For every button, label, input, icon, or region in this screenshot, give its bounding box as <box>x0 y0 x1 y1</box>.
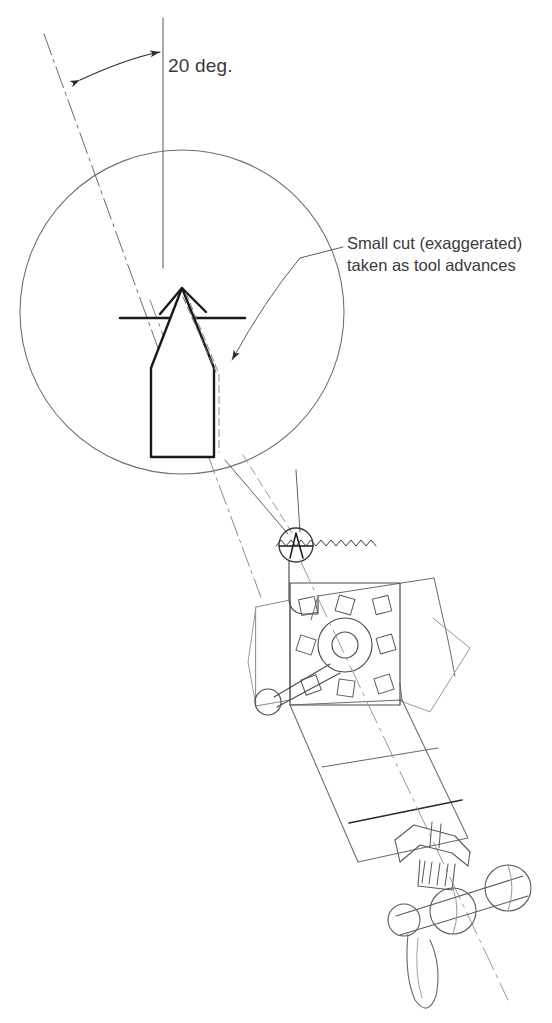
bolt-hole <box>337 679 355 697</box>
magnifier-leader-cone-dashed <box>243 455 292 533</box>
technical-drawing <box>0 0 552 1023</box>
barrel-body <box>290 700 468 862</box>
flange-right-edge <box>468 852 470 866</box>
bolt-hole-group <box>296 595 396 697</box>
flange-left-edge <box>395 840 400 862</box>
spindle-shaft <box>430 822 441 848</box>
handle-center-ball <box>430 888 476 934</box>
thread-profile-zigzag <box>276 540 376 546</box>
side-plate-left-edge <box>248 607 256 706</box>
crank-arm-upper <box>274 664 330 697</box>
angle-dimension-label: 20 deg. <box>168 55 233 77</box>
right-ball-meridian <box>508 865 512 911</box>
flange-bottom <box>400 845 468 866</box>
handle-grip-inner <box>417 938 422 998</box>
side-plate-right <box>398 618 470 712</box>
magnifier-leader-cone <box>225 460 300 534</box>
bolt-hole <box>335 595 355 615</box>
tool-centerline <box>44 34 174 392</box>
callout-line-1: Small cut (exaggerated) <box>347 232 522 254</box>
handle-left-ball <box>388 904 420 936</box>
barrel-division-1 <box>322 748 438 767</box>
center-ball-meridian <box>453 888 457 934</box>
handle-grip <box>407 934 438 1008</box>
handle-right-ball <box>485 865 531 911</box>
upper-tilted-plate-back <box>318 578 455 676</box>
diagram-canvas: 20 deg. Small cut (exaggerated) taken as… <box>0 0 552 1023</box>
bolt-hole <box>296 635 316 655</box>
bolt-hole <box>372 595 391 614</box>
bolt-hole <box>374 674 394 694</box>
angle-dimension-arc <box>80 52 160 80</box>
callout-leader-line <box>232 247 343 360</box>
collar-knurl <box>422 861 448 886</box>
handle-bar-top <box>396 876 523 916</box>
callout-line-2: taken as tool advances <box>347 254 522 276</box>
die-head-plate <box>290 583 400 705</box>
barrel-division-2 <box>349 800 462 823</box>
bolt-hole <box>376 634 396 654</box>
hub-outer-circle <box>318 618 372 672</box>
callout-text: Small cut (exaggerated) taken as tool ad… <box>347 232 522 276</box>
